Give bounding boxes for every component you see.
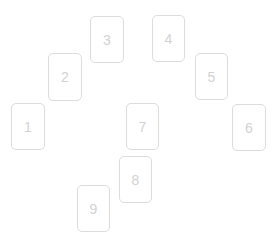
card-6[interactable]: 6 (232, 104, 266, 151)
card-4[interactable]: 4 (152, 15, 185, 62)
card-label: 8 (132, 173, 140, 187)
card-label: 4 (165, 32, 173, 46)
card-9[interactable]: 9 (77, 185, 110, 232)
card-8[interactable]: 8 (119, 156, 152, 203)
card-1[interactable]: 1 (11, 103, 45, 150)
card-board: 1 2 3 4 5 6 7 8 9 (0, 0, 275, 248)
card-label: 7 (139, 120, 147, 134)
card-label: 2 (61, 70, 69, 84)
card-label: 5 (208, 70, 216, 84)
card-label: 6 (245, 121, 253, 135)
card-3[interactable]: 3 (90, 16, 124, 63)
card-label: 1 (24, 120, 32, 134)
card-5[interactable]: 5 (195, 53, 228, 100)
card-2[interactable]: 2 (48, 53, 82, 101)
card-label: 9 (90, 202, 98, 216)
card-7[interactable]: 7 (126, 103, 159, 150)
card-label: 3 (103, 33, 111, 47)
